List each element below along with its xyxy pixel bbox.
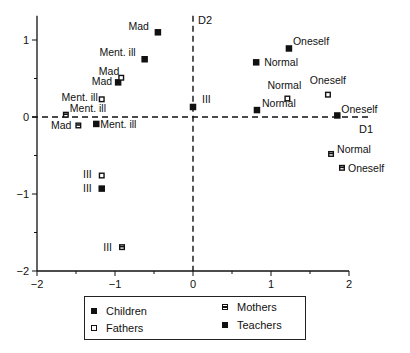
open-square-icon xyxy=(285,96,290,101)
open-square-icon xyxy=(326,92,331,97)
open-square-icon xyxy=(99,173,104,178)
data-point-mothers: III xyxy=(103,241,124,253)
x-tick-label: −1 xyxy=(109,278,122,290)
x-tick-label: −2 xyxy=(31,278,44,290)
y-tick-label: −1 xyxy=(16,188,29,200)
data-point-mothers: Oneself xyxy=(340,162,385,174)
d2-label: D2 xyxy=(198,14,212,26)
point-label: Oneself xyxy=(310,74,346,86)
legend-label: Children xyxy=(106,305,147,317)
point-label: Oneself xyxy=(348,162,384,174)
point-label: Normal xyxy=(337,143,371,155)
filled-square-icon xyxy=(286,45,293,52)
x-tick-label: 1 xyxy=(268,278,274,290)
data-point-children: Ment. ill xyxy=(93,118,136,130)
data-point-children: Mad xyxy=(92,75,122,87)
data-point-children: Normal xyxy=(253,56,298,68)
filled-square-icon xyxy=(93,121,100,128)
y-tick-label: 0 xyxy=(23,111,29,123)
point-label: Normal xyxy=(264,56,298,68)
point-label: Ment. ill xyxy=(99,46,135,58)
filled-square-icon xyxy=(222,322,228,328)
point-label: III xyxy=(103,241,112,253)
point-label: Ment. ill xyxy=(100,118,136,130)
point-label: Oneself xyxy=(293,35,329,47)
y-tick-label: 1 xyxy=(23,34,29,46)
filled-square-icon xyxy=(334,112,341,119)
legend-item-mothers: Mothers xyxy=(222,301,277,313)
filled-square-icon xyxy=(141,56,148,63)
point-label: Mad xyxy=(51,119,72,131)
legend-label: Teachers xyxy=(237,319,282,331)
point-label: III xyxy=(202,93,211,105)
barred-square-icon xyxy=(222,304,228,310)
data-point-fathers: III xyxy=(83,168,104,180)
data-point-children: Mad xyxy=(128,20,161,35)
point-label: Oneself xyxy=(341,103,377,115)
data-point-mothers: Mad xyxy=(51,119,81,131)
point-label: Mad xyxy=(99,65,120,77)
filled-square-icon xyxy=(253,59,260,66)
legend-label: Fathers xyxy=(106,322,143,334)
legend-item-teachers: Teachers xyxy=(222,319,282,331)
data-point-children: Ment. ill xyxy=(99,46,147,62)
legend: Children Fathers Mothers Teachers xyxy=(84,296,306,340)
x-tick-label: 0 xyxy=(190,278,196,290)
filled-square-icon xyxy=(98,185,105,192)
point-label: Mad xyxy=(92,75,113,87)
legend-item-fathers: Fathers xyxy=(91,322,143,334)
point-label: Ment. ill xyxy=(70,102,106,114)
scatter-plot: −2−101210−1−2D2D1 MadMent. illMadMent. i… xyxy=(0,0,410,296)
data-point-mothers: Normal xyxy=(329,143,371,156)
open-square-icon xyxy=(91,325,97,331)
filled-square-icon xyxy=(91,308,97,314)
filled-square-icon xyxy=(190,104,197,111)
data-point-children: III xyxy=(83,182,105,194)
axes: −2−101210−1−2D2D1 xyxy=(16,14,373,290)
filled-square-icon xyxy=(254,107,261,114)
data-point-children: Oneself xyxy=(286,35,330,51)
y-tick-label: −2 xyxy=(16,265,29,277)
x-tick-label: 2 xyxy=(346,278,352,290)
filled-square-icon xyxy=(155,29,162,36)
point-label: Normal xyxy=(262,97,296,109)
data-point-mothers: Ment. ill xyxy=(64,102,106,117)
open-square-icon xyxy=(119,75,124,80)
point-label: Mad xyxy=(128,20,149,32)
legend-item-children: Children xyxy=(91,305,147,317)
data-points: MadMent. illMadMent. illIIIOneselfNormal… xyxy=(51,20,384,253)
point-label: III xyxy=(83,182,92,194)
legend-label: Mothers xyxy=(237,301,277,313)
point-label: III xyxy=(83,168,92,180)
data-point-fathers: Oneself xyxy=(310,74,346,97)
d1-label: D1 xyxy=(359,123,373,135)
point-label: Normal xyxy=(267,79,301,91)
